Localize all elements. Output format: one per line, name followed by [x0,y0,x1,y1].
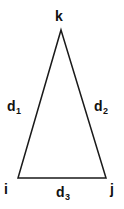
vertex-label-i: i [4,182,8,196]
triangle-outline [18,30,106,178]
edge-label-d1: d1 [7,99,21,113]
vertex-label-j: j [110,182,114,196]
edge-label-d2-base: d [94,98,103,114]
edge-label-d3: d3 [56,185,70,199]
edge-label-d3-base: d [56,184,65,200]
vertex-label-k: k [55,9,63,23]
edge-label-d1-base: d [7,98,16,114]
edge-label-d2-subscript: 2 [103,106,108,116]
edge-label-d3-subscript: 3 [65,192,70,202]
edge-label-d2: d2 [94,99,108,113]
triangle-diagram: k i j d1 d2 d3 [0,0,124,209]
edge-label-d1-subscript: 1 [16,106,21,116]
